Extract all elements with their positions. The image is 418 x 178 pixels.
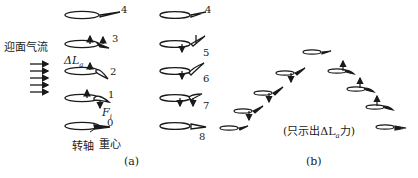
airfoil-a-right-4 (160, 12, 206, 19)
position-label-a-left-0: 0 (107, 117, 113, 128)
flutter-diagram-drawing (0, 0, 418, 178)
panel-b-note-text: (只示出ΔL (283, 125, 336, 138)
airfoil-a-left-0 (65, 122, 110, 132)
oncoming-flow-arrows (30, 64, 48, 92)
airfoil-a-right-5 (160, 35, 205, 52)
position-label-a-right-8: 8 (199, 131, 205, 142)
delta-l-label: ΔLa (64, 55, 83, 71)
position-label-a-left-2: 2 (110, 66, 116, 77)
delta-l-subscript: a (79, 61, 83, 69)
position-label-a-right-6: 6 (203, 73, 209, 84)
oncoming-flow-label: 迎面气流 (4, 42, 48, 54)
center-of-gravity-label: 重心 (99, 139, 121, 151)
airfoil-a-right-8 (160, 123, 206, 130)
airfoil-a-left-3 (65, 36, 109, 48)
position-label-a-left-4: 4 (121, 4, 127, 15)
airfoil-a-right-7 (160, 94, 202, 106)
position-label-a-right-4: 4 (205, 4, 211, 15)
position-label-a-left-3: 3 (112, 33, 118, 44)
caption-b: (b) (306, 156, 322, 167)
position-label-a-left-1: 1 (108, 89, 114, 100)
pivot-axis-label: 转轴 (72, 141, 94, 153)
panel-b-note: (只示出ΔLa力) (283, 126, 355, 142)
caption-a: (a) (124, 156, 139, 167)
delta-l-text: ΔL (64, 54, 79, 67)
trajectory-airfoils-b (220, 50, 406, 130)
position-label-a-right-5: 5 (203, 47, 209, 58)
airfoil-a-right-6 (160, 63, 204, 79)
airfoil-a-left-4 (65, 11, 120, 18)
position-label-a-right-7: 7 (203, 100, 209, 111)
panel-b-note-end: 力) (340, 125, 355, 138)
